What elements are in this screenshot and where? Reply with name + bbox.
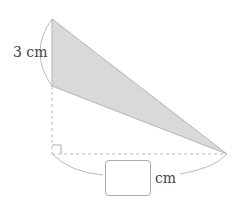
base-brace-arc-right: [180, 154, 227, 174]
shaded-triangle: [52, 19, 227, 154]
base-brace-arc-left: [52, 154, 103, 175]
answer-input-box[interactable]: [105, 160, 151, 196]
height-label: 3 cm: [13, 44, 47, 60]
base-unit-label: cm: [155, 170, 176, 186]
right-angle-mark: [52, 145, 61, 154]
